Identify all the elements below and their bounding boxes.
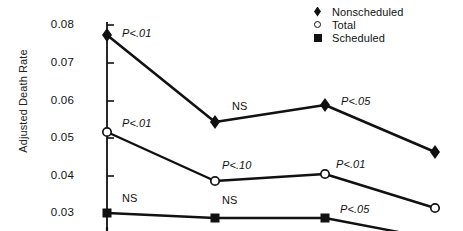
annotation-scheduled-1: NS <box>122 192 137 204</box>
y-tick-label-0.04: 0.04 <box>30 169 74 181</box>
legend-item-scheduled: Scheduled <box>310 31 404 44</box>
data-point-marker <box>321 170 329 178</box>
series-line-nonscheduled <box>107 35 435 152</box>
y-axis-label: Adjusted Death Rate <box>17 26 29 176</box>
data-point-marker <box>431 204 439 212</box>
data-point-marker <box>320 98 330 112</box>
series-markers-nonscheduled <box>102 28 440 159</box>
data-point-marker <box>321 214 330 223</box>
circle-marker-icon <box>310 18 328 31</box>
annotation-nonscheduled-2: NS <box>232 100 247 112</box>
annotation-scheduled-2: NS <box>222 194 237 206</box>
data-point-marker <box>210 115 220 129</box>
data-point-marker <box>102 28 112 42</box>
legend-item-nonscheduled: Nonscheduled <box>310 5 404 18</box>
diamond-marker-icon <box>310 5 328 18</box>
legend-label-scheduled: Scheduled <box>332 32 385 44</box>
y-tick-label-0.03: 0.03 <box>30 206 74 218</box>
legend: Nonscheduled Total Scheduled <box>310 5 404 44</box>
annotation-total-3: P<.01 <box>336 158 366 170</box>
legend-item-total: Total <box>310 18 404 31</box>
annotation-total-2: P<.10 <box>222 159 252 171</box>
y-tick-label-0.05: 0.05 <box>30 131 74 143</box>
data-point-marker <box>211 177 219 185</box>
square-marker-icon <box>310 31 328 44</box>
series-line-total <box>107 132 435 208</box>
data-point-marker <box>103 128 111 136</box>
series-markers-total <box>103 128 439 212</box>
legend-label-nonscheduled: Nonscheduled <box>332 6 404 18</box>
annotation-total-1: P<.01 <box>122 117 152 129</box>
annotation-nonscheduled-3: P<.05 <box>341 95 371 107</box>
data-point-marker <box>211 214 220 223</box>
annotation-scheduled-3: P<.05 <box>340 203 370 215</box>
annotation-nonscheduled-1: P<.01 <box>122 27 152 39</box>
chart-figure: Adjusted Death Rate 0.08 0.07 0.06 0.05 … <box>0 0 463 231</box>
y-tick-label-0.06: 0.06 <box>30 94 74 106</box>
series-line-scheduled <box>107 213 435 231</box>
data-point-marker <box>430 145 440 159</box>
legend-label-total: Total <box>332 19 356 31</box>
y-tick-label-0.07: 0.07 <box>30 56 74 68</box>
data-point-marker <box>103 209 112 218</box>
y-tick-label-0.08: 0.08 <box>30 18 74 30</box>
